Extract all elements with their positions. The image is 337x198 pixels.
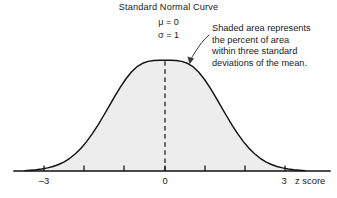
- annotation-line-1: Shaded area represents: [212, 23, 311, 35]
- x-tick-label-pos3: 3: [272, 176, 296, 185]
- page-title: Standard Normal Curve: [0, 3, 337, 12]
- annotation-line-3: within three standard: [212, 46, 311, 58]
- x-tick-label-neg3: –3: [32, 176, 56, 185]
- standard-normal-curve-figure: Standard Normal Curve μ = 0 σ = 1 Shaded…: [0, 0, 337, 198]
- x-tick-label-zero: 0: [153, 176, 177, 185]
- x-axis-title: z score: [295, 176, 325, 185]
- annotation-line-4: deviations of the mean.: [212, 58, 311, 70]
- shaded-area-annotation: Shaded area represents the percent of ar…: [212, 23, 311, 69]
- annotation-line-2: the percent of area: [212, 35, 311, 47]
